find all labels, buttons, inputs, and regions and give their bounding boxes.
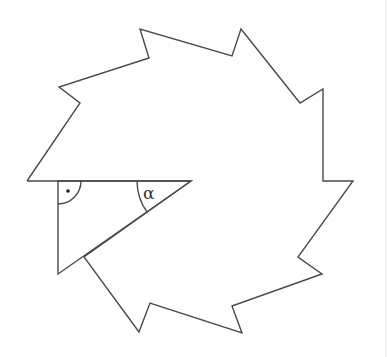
right-triangle	[58, 181, 191, 274]
right-angle-arc	[58, 181, 81, 204]
alpha-label: α	[143, 183, 155, 203]
right-angle-dot	[66, 189, 70, 193]
geometry-figure: α	[0, 0, 387, 357]
page-edge-line	[385, 0, 386, 357]
